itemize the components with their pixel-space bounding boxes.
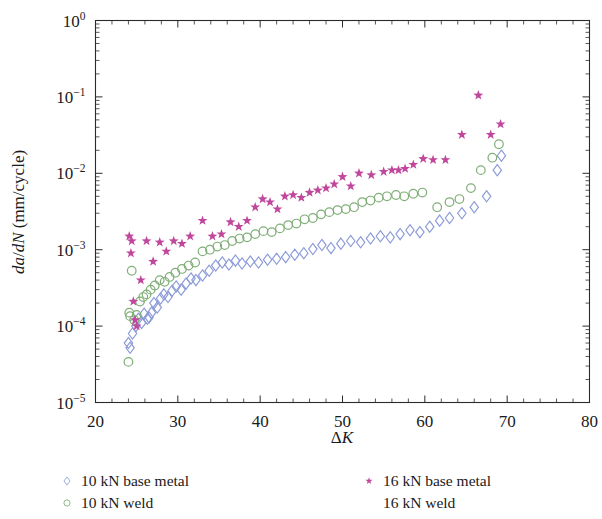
x-axis-title: ΔK: [331, 428, 355, 447]
data-point: [426, 221, 434, 232]
data-point: [251, 230, 260, 239]
data-point: [246, 256, 254, 267]
scatter-plot: 10−510−410−310−210−1100 20304050607080 Δ…: [0, 0, 602, 519]
svg-text:10−4: 10−4: [56, 315, 85, 336]
data-point: [400, 163, 410, 172]
data-point: [333, 206, 342, 215]
data-point: [366, 196, 375, 205]
data-point: [435, 215, 443, 226]
data-point: [493, 165, 501, 176]
data-point: [128, 328, 136, 339]
y-axis-title: da/dN (mm/cycle): [9, 150, 28, 274]
data-point: [406, 225, 414, 236]
data-point: [408, 159, 418, 168]
data-point: [433, 203, 442, 212]
svg-text:80: 80: [581, 412, 598, 431]
svg-text:60: 60: [416, 412, 433, 431]
data-point: [148, 256, 158, 265]
data-point: [396, 229, 404, 240]
data-point: [418, 154, 428, 163]
data-point: [126, 248, 136, 257]
data-point: [337, 238, 345, 249]
data-point: [409, 189, 418, 198]
data-point: [124, 358, 133, 367]
legend-entry-16kn-weld[interactable]: 16 kN weld: [362, 494, 455, 512]
data-point: [356, 237, 364, 248]
data-point: [458, 208, 466, 219]
data-point: [161, 246, 171, 255]
data-point: [455, 195, 464, 204]
data-point: [171, 268, 180, 277]
data-point: [416, 226, 424, 237]
data-point: [207, 231, 217, 240]
data-point: [418, 188, 427, 197]
data-point: [165, 273, 174, 282]
data-point: [242, 215, 252, 224]
data-point: [309, 214, 318, 223]
data-point: [366, 233, 374, 244]
data-point: [383, 192, 392, 201]
data-point: [226, 217, 236, 226]
data-point: [341, 205, 350, 214]
legend-entry-16kn-base-metal[interactable]: 16 kN base metal: [362, 472, 491, 490]
svg-text:20: 20: [87, 412, 104, 431]
data-point: [496, 119, 506, 128]
data-point: [428, 155, 438, 164]
legend-entry-10kn-base-metal[interactable]: 10 kN base metal: [60, 472, 189, 490]
legend-entry-10kn-weld[interactable]: 10 kN weld: [60, 494, 153, 512]
data-point: [164, 291, 172, 302]
legend-marker-blank-icon: [362, 496, 376, 510]
data-series-group: [124, 90, 505, 366]
data-point: [185, 231, 195, 240]
data-point: [284, 221, 293, 230]
svg-text:100: 100: [63, 10, 86, 31]
data-point: [254, 257, 262, 268]
data-point: [445, 212, 453, 223]
data-point: [366, 170, 376, 179]
legend-label-16kn-weld: 16 kN weld: [383, 494, 455, 512]
svg-text:40: 40: [252, 412, 269, 431]
figure-container: 10−510−410−310−210−1100 20304050607080 Δ…: [0, 0, 602, 519]
data-point: [155, 276, 164, 285]
data-point: [350, 203, 359, 212]
data-point: [486, 130, 496, 139]
data-point: [376, 231, 384, 242]
data-point: [329, 179, 339, 188]
data-point: [198, 215, 208, 224]
svg-text:10−1: 10−1: [56, 86, 85, 107]
svg-text:10−2: 10−2: [56, 162, 85, 183]
data-point: [276, 224, 285, 233]
data-point: [127, 266, 136, 275]
data-point: [497, 150, 505, 161]
data-point: [273, 204, 283, 213]
svg-text:10−5: 10−5: [56, 392, 85, 413]
data-point: [379, 166, 389, 175]
data-point: [169, 236, 179, 245]
data-point: [358, 198, 367, 207]
y-axis-tick-labels: 10−510−410−310−210−1100: [56, 10, 86, 413]
legend-marker-diamond-icon: [60, 474, 74, 488]
data-point: [467, 184, 476, 193]
data-point: [280, 191, 290, 200]
legend-marker-star-icon: [362, 474, 376, 488]
data-point: [392, 191, 401, 200]
data-point: [338, 172, 348, 181]
data-point: [309, 243, 317, 254]
data-point: [445, 198, 454, 207]
data-point: [259, 227, 268, 236]
legend-label-16kn-base-metal: 16 kN base metal: [383, 472, 491, 490]
svg-text:30: 30: [169, 412, 186, 431]
data-point: [470, 202, 478, 213]
data-point: [440, 155, 450, 164]
data-point: [374, 193, 383, 202]
data-point: [160, 278, 169, 287]
data-point: [300, 248, 308, 259]
data-point: [288, 190, 298, 199]
legend-label-10kn-base-metal: 10 kN base metal: [81, 472, 189, 490]
data-point: [160, 289, 168, 300]
data-point: [321, 183, 331, 192]
data-point: [142, 236, 152, 245]
data-point: [318, 239, 326, 250]
data-point: [346, 181, 356, 190]
data-point: [488, 153, 497, 162]
